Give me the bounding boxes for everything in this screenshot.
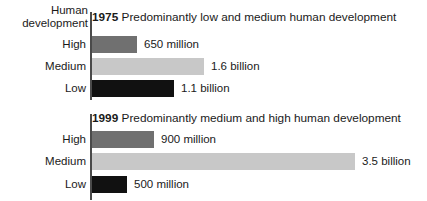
value-label-1999-low: 500 million xyxy=(134,178,189,191)
value-label-1975-low: 1.1 billion xyxy=(181,82,230,95)
bar-1975-medium xyxy=(92,58,204,75)
category-label-1999-high: High xyxy=(0,133,86,146)
human-development-population-chart: Human development 1975 Predominantly low… xyxy=(0,0,427,201)
bar-1975-high xyxy=(92,36,137,53)
category-label-1975-high: High xyxy=(0,38,86,51)
axis-caption-line-2: development xyxy=(0,17,88,30)
bar-row-1975-medium: Medium 1.6 billion xyxy=(0,58,427,76)
value-label-1999-medium: 3.5 billion xyxy=(362,155,411,168)
bar-row-1999-low: Low 500 million xyxy=(0,176,427,194)
bar-row-1975-high: High 650 million xyxy=(0,36,427,54)
panel-heading-text-1999: Predominantly medium and high human deve… xyxy=(122,111,401,125)
bar-row-1975-low: Low 1.1 billion xyxy=(0,80,427,98)
axis-caption-line-1: Human xyxy=(0,4,88,17)
bar-row-1999-high: High 900 million xyxy=(0,131,427,149)
category-label-1999-low: Low xyxy=(0,178,86,191)
value-label-1999-high: 900 million xyxy=(161,133,216,146)
panel-heading-1999: 1999 Predominantly medium and high human… xyxy=(92,111,401,125)
value-label-1975-high: 650 million xyxy=(144,38,199,51)
bar-1975-low xyxy=(92,80,174,97)
panel-heading-text-1975: Predominantly low and medium human devel… xyxy=(122,10,397,24)
category-label-1975-medium: Medium xyxy=(0,60,86,73)
axis-caption: Human development xyxy=(0,4,88,29)
panel-year-1999: 1999 xyxy=(92,111,118,125)
value-label-1975-medium: 1.6 billion xyxy=(211,60,260,73)
panel-heading-1975: 1975 Predominantly low and medium human … xyxy=(92,10,396,24)
bar-1999-high xyxy=(92,131,154,148)
panel-year-1975: 1975 xyxy=(92,10,118,24)
category-label-1999-medium: Medium xyxy=(0,155,86,168)
category-label-1975-low: Low xyxy=(0,82,86,95)
bar-row-1999-medium: Medium 3.5 billion xyxy=(0,153,427,171)
bar-1999-medium xyxy=(92,153,355,170)
bar-1999-low xyxy=(92,176,127,193)
